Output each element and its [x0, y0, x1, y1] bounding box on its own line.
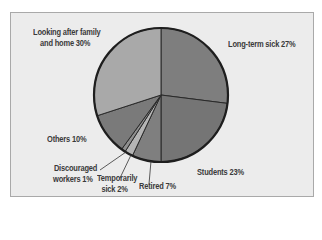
label-retired: Retired 7%	[139, 181, 176, 192]
label-others: Others 10%	[47, 134, 86, 145]
label-students: Students 23%	[197, 167, 244, 178]
label-discouraged-workers: Discouraged workers 1%	[53, 163, 97, 185]
pie-slice-long-term-sick	[161, 28, 228, 103]
label-temporarily-sick: Temporarily sick 2%	[97, 173, 137, 195]
label-family: Looking after family and home 30%	[33, 27, 101, 49]
label-long-term-sick: Long-term sick 27%	[228, 39, 295, 50]
leader-discouraged	[100, 152, 126, 170]
